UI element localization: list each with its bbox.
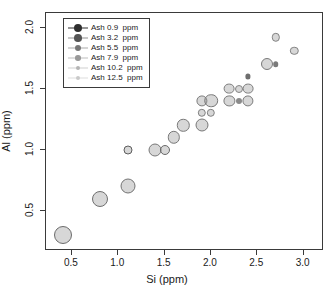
data-point: [243, 83, 254, 94]
data-point: [168, 131, 180, 143]
data-point: [120, 179, 135, 194]
data-point: [123, 145, 132, 154]
y-tick: [40, 88, 45, 89]
legend-marker-icon: [68, 33, 88, 43]
x-tick-label: 2.5: [249, 257, 263, 268]
legend-item[interactable]: Ash 5.5 ppm: [68, 43, 143, 53]
legend-item[interactable]: Ash 3.2 ppm: [68, 33, 143, 43]
x-tick-label: 1.0: [110, 257, 124, 268]
data-point: [290, 47, 298, 55]
y-tick: [40, 27, 45, 28]
data-point: [235, 85, 243, 93]
y-tick-label: 0.5: [24, 203, 35, 217]
data-point: [272, 33, 280, 41]
data-point: [236, 98, 242, 104]
legend-item[interactable]: Ash 10.2 ppm: [68, 63, 143, 73]
data-point: [197, 109, 205, 117]
y-tick: [40, 149, 45, 150]
x-axis-label: Si (ppm): [0, 273, 334, 285]
y-axis-label: Al (ppm): [0, 110, 12, 152]
x-tick-label: 0.5: [64, 257, 78, 268]
legend-marker-icon: [68, 63, 88, 73]
y-tick-label: 1.0: [24, 142, 35, 156]
data-point: [195, 119, 208, 132]
legend-item[interactable]: Ash 12.5 ppm: [68, 73, 143, 83]
data-point: [207, 109, 215, 117]
x-tick: [256, 250, 257, 255]
y-tick-label: 1.5: [24, 81, 35, 95]
data-point: [160, 145, 170, 155]
data-point: [92, 191, 108, 207]
legend-marker-icon: [68, 43, 88, 53]
legend-label: Ash 10.2 ppm: [88, 63, 143, 73]
data-point: [204, 94, 218, 108]
data-point: [54, 226, 72, 244]
x-tick: [164, 250, 165, 255]
x-tick-label: 2.0: [203, 257, 217, 268]
legend-label: Ash 12.5 ppm: [88, 73, 143, 83]
legend-marker-icon: [68, 23, 88, 33]
legend-marker-icon: [68, 73, 88, 83]
legend-marker-icon: [68, 53, 88, 63]
legend-label: Ash 5.5 ppm: [88, 43, 138, 53]
data-point: [177, 119, 189, 131]
y-tick: [40, 210, 45, 211]
x-tick: [303, 250, 304, 255]
data-point: [224, 83, 235, 94]
scatter-chart: 0.51.01.52.02.53.0 0.51.01.52.0 Si (ppm)…: [0, 0, 334, 295]
legend: Ash 0.9 ppmAsh 3.2 ppmAsh 5.5 ppmAsh 7.9…: [63, 18, 150, 88]
data-point: [261, 58, 273, 70]
legend-label: Ash 3.2 ppm: [88, 33, 138, 43]
legend-label: Ash 7.9 ppm: [88, 53, 138, 63]
x-tick: [210, 250, 211, 255]
legend-label: Ash 0.9 ppm: [88, 23, 138, 33]
data-point: [242, 95, 253, 106]
y-tick-label: 2.0: [24, 20, 35, 34]
data-point: [273, 61, 279, 67]
data-point: [224, 95, 235, 106]
x-tick: [117, 250, 118, 255]
data-point: [245, 74, 250, 79]
legend-item[interactable]: Ash 0.9 ppm: [68, 23, 143, 33]
x-tick: [71, 250, 72, 255]
x-tick-label: 3.0: [296, 257, 310, 268]
legend-item[interactable]: Ash 7.9 ppm: [68, 53, 143, 63]
x-tick-label: 1.5: [157, 257, 171, 268]
